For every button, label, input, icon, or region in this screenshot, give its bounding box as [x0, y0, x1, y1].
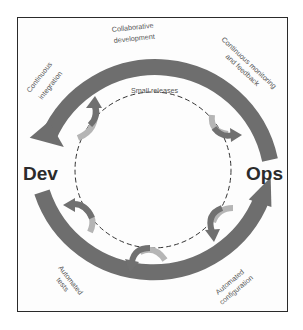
node-ops: Ops: [246, 163, 283, 184]
top-cycle-arrow: [27, 67, 270, 160]
label-small-releases: Small releases: [131, 86, 179, 95]
devops-cycle-diagram: Collaborative development Continuous int…: [0, 0, 303, 330]
small-arrow-upper-right: [212, 115, 242, 142]
label-collaborative-line2: development: [113, 32, 155, 45]
node-dev: Dev: [23, 163, 58, 184]
